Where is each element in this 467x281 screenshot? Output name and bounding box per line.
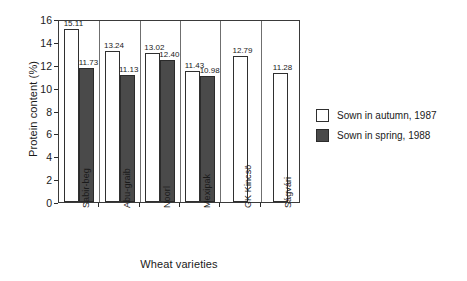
bar-value-label: 11.13	[119, 66, 138, 74]
category-separator	[140, 21, 141, 202]
legend-item[interactable]: Sown in spring, 1988	[316, 125, 437, 145]
category-separator	[99, 21, 100, 202]
x-tick-label: Abu-graib	[123, 168, 132, 208]
y-tick-label: 10	[30, 84, 52, 94]
legend-item[interactable]: Sown in autumn, 1987	[316, 105, 437, 125]
bar-value-label: 12.79	[233, 47, 253, 55]
x-tick-mark	[139, 203, 140, 207]
y-tick-label: 0	[30, 198, 52, 208]
x-axis-title: Wheat varieties	[58, 258, 300, 270]
category-separator	[261, 21, 262, 202]
x-tick-mark	[219, 203, 220, 207]
plot-area	[58, 20, 300, 203]
chart-legend: Sown in autumn, 1987 Sown in spring, 198…	[316, 105, 437, 145]
y-tick-label: 6	[30, 129, 52, 139]
bar-autumn	[105, 51, 120, 202]
bar-autumn	[185, 71, 200, 202]
category-separator	[220, 21, 221, 202]
bar-autumn	[64, 29, 79, 202]
x-tick-label: Noorl	[163, 186, 172, 208]
y-tick-label: 2	[30, 175, 52, 185]
protein-content-bar-chart: Protein content (%) 0246810121416 15.111…	[0, 0, 467, 281]
x-tick-label: Mexipak	[203, 174, 212, 208]
legend-swatch-autumn-icon	[316, 109, 329, 122]
y-tick-label: 4	[30, 152, 52, 162]
bar-autumn	[145, 53, 160, 202]
bar-value-label: 15.11	[64, 20, 83, 28]
y-tick-mark	[54, 203, 58, 204]
x-tick-mark	[98, 203, 99, 207]
x-tick-label: Sabir-beg	[82, 168, 91, 208]
y-tick-label: 8	[30, 107, 52, 117]
x-tick-mark	[260, 203, 261, 207]
bar-value-label: 11.73	[79, 59, 98, 67]
legend-label: Sown in spring, 1988	[337, 130, 430, 141]
bar-spring	[160, 60, 175, 202]
y-tick-label: 16	[30, 15, 52, 25]
legend-swatch-spring-icon	[316, 129, 329, 142]
category-separator	[180, 21, 181, 202]
bar-value-label: 13.24	[104, 42, 124, 50]
y-tick-label: 14	[30, 38, 52, 48]
bar-value-label: 11.28	[273, 64, 292, 72]
bar-value-label: 10.98	[200, 67, 220, 75]
x-tick-label: GK Kincsö	[244, 165, 253, 208]
x-tick-mark	[179, 203, 180, 207]
bar-value-label: 12.40	[159, 51, 179, 59]
x-tick-label: Ságvári	[284, 177, 293, 208]
legend-label: Sown in autumn, 1987	[337, 110, 437, 121]
y-tick-label: 12	[30, 61, 52, 71]
